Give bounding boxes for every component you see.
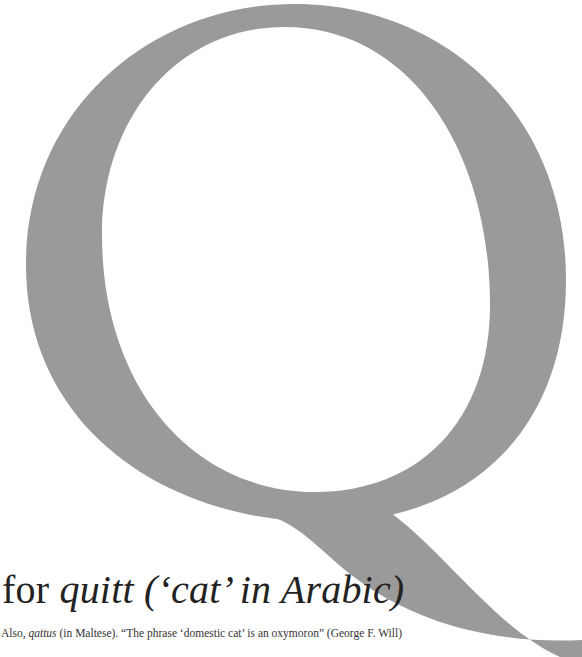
caption-word: qattus: [28, 627, 56, 639]
q-bowl: [26, 4, 566, 522]
heading-gloss: (‘cat’ in Arabic): [134, 567, 405, 612]
letter-q-graphic: [0, 0, 582, 657]
heading-word: quitt: [59, 567, 133, 612]
caption: Also, qattus (in Maltese). “The phrase ‘…: [1, 626, 402, 640]
caption-lead: Also,: [1, 627, 28, 639]
heading: for quitt (‘cat’ in Arabic): [2, 568, 404, 612]
caption-rest: (in Maltese). “The phrase ‘domestic cat’…: [57, 627, 402, 639]
heading-prefix: for: [2, 567, 59, 612]
